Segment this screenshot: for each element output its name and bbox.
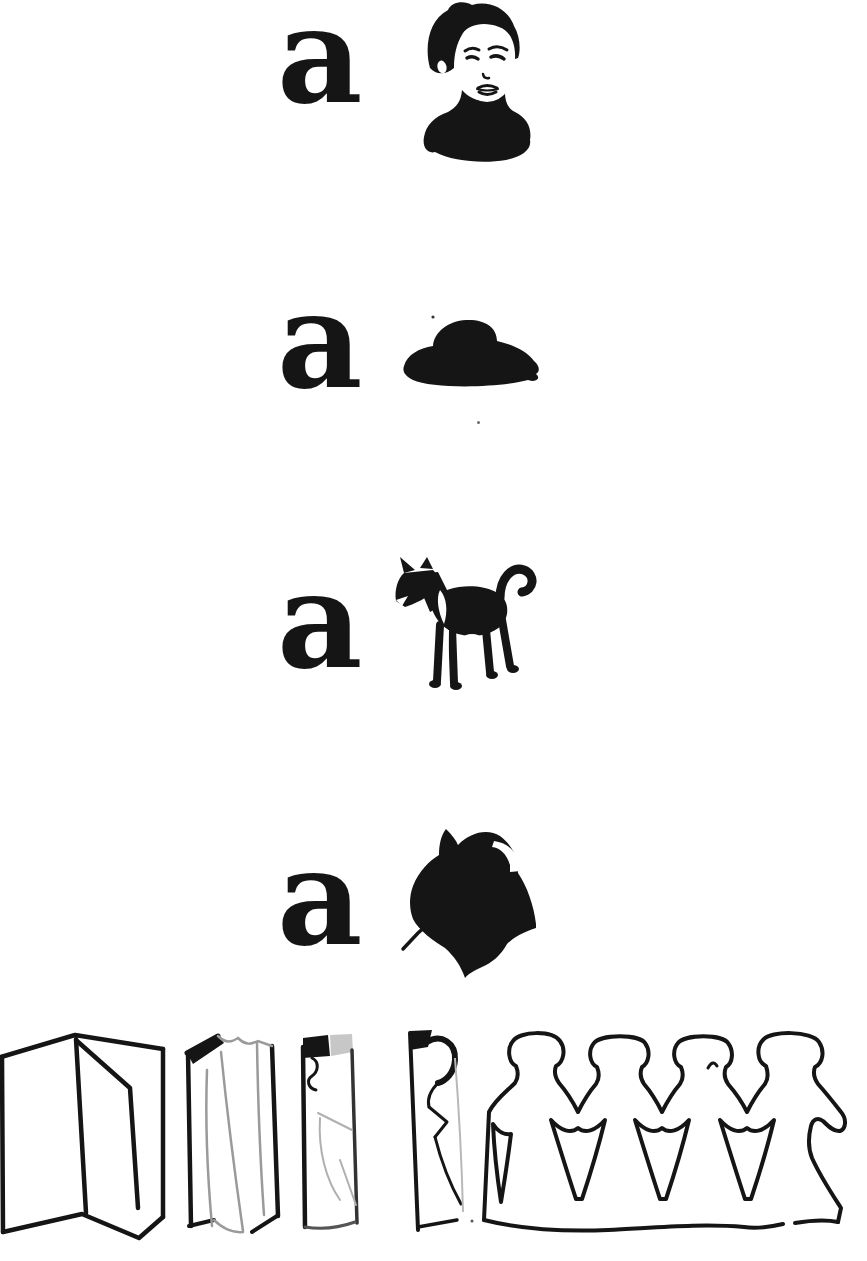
- letter-a-row1: a: [277, 0, 363, 122]
- scanned-primer-page: a a a: [0, 0, 867, 1261]
- scan-speck: [477, 421, 480, 424]
- boy-head-illustration: [418, 0, 540, 165]
- scan-speck: [431, 315, 434, 318]
- dog-illustration: [392, 553, 544, 691]
- paper-doll-chain-unfolded: [471, 1033, 846, 1231]
- letter-a-row2: a: [277, 275, 363, 407]
- spinning-top-illustration: [398, 825, 540, 987]
- letter-a-row4: a: [277, 832, 363, 964]
- accordion-folded-paper-closed: [187, 1035, 278, 1232]
- folded-strip-blank: [303, 1034, 357, 1228]
- flat-cap-illustration: [400, 312, 545, 394]
- accordion-folded-paper-open: [1, 1035, 163, 1238]
- letter-a-row3: a: [277, 555, 363, 687]
- folded-strip-with-half-doll-outline: [410, 1030, 463, 1230]
- paper-doll-craft-illustration: [0, 1020, 867, 1261]
